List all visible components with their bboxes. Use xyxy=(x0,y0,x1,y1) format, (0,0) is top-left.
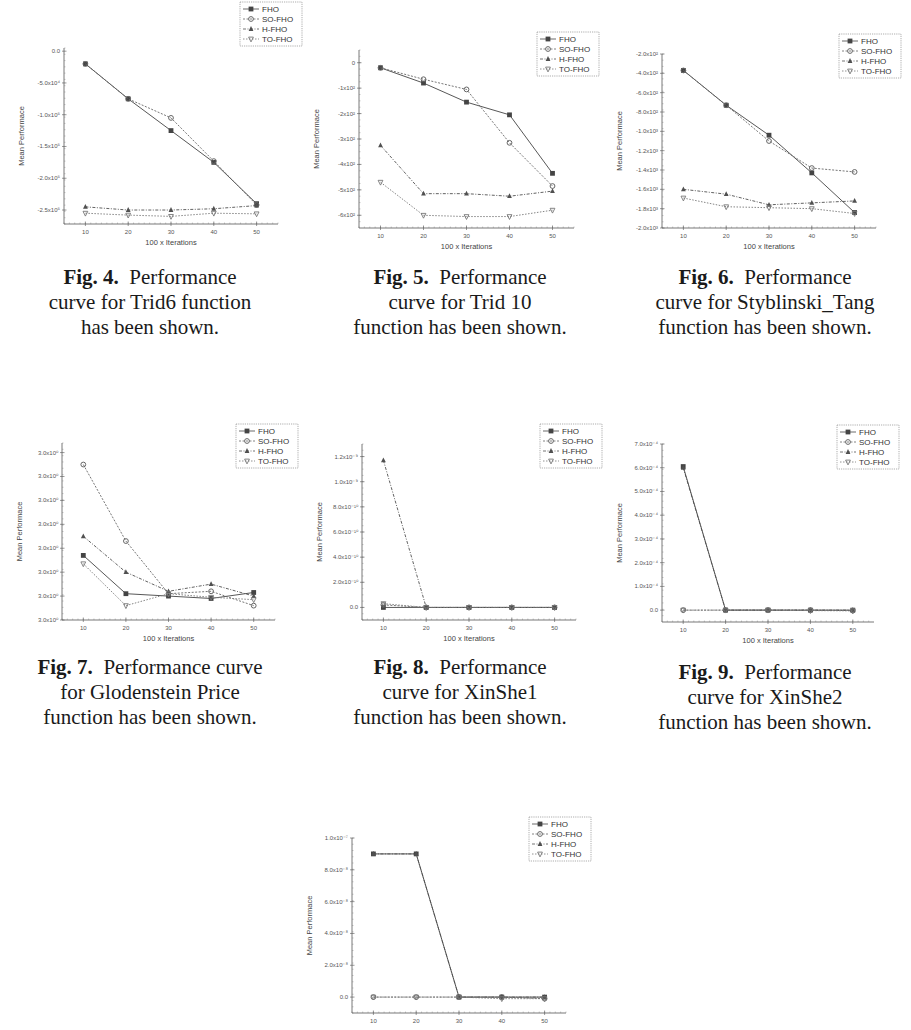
axes: -2.0x10²-4.0x10²-6.0x10²-8.0x10²-1.0x10³… xyxy=(615,51,876,251)
series-fho xyxy=(378,65,555,175)
y-tick-label: -2x10² xyxy=(338,111,355,117)
y-tick-label: 1.0x10⁻⁹ xyxy=(334,479,358,485)
y-tick-label: -1.8x10³ xyxy=(636,206,658,212)
axes: 0.0-5.0x10⁴-1.0x10⁵-1.5x10⁵-2.0x10⁵-2.5x… xyxy=(17,48,278,247)
triangle-up-marker-icon xyxy=(83,204,88,209)
figure-10-chart: 0.02.0x10⁻⁸4.0x10⁻⁸6.0x10⁻⁸8.0x10⁻⁸1.0x1… xyxy=(300,800,620,1030)
triangle-down-marker-icon xyxy=(421,213,426,218)
x-axis-label: 100 x Iterations xyxy=(742,636,794,645)
square-marker-icon xyxy=(169,128,174,133)
x-tick-label: 30 xyxy=(165,625,172,631)
legend-label: H-FHO xyxy=(551,840,576,849)
triangle-down-marker-icon xyxy=(724,205,729,210)
x-tick-label: 30 xyxy=(765,627,772,633)
square-marker-icon xyxy=(245,429,250,434)
circle-marker-icon xyxy=(251,603,256,608)
triangle-down-marker-icon xyxy=(126,213,131,218)
axes: 0.01.0x10⁻⁴2.0x10⁻⁴3.0x10⁻⁴4.0x10⁻⁴5.0x1… xyxy=(615,441,874,645)
triangle-up-marker-icon xyxy=(126,207,131,212)
legend-label: TO-FHO xyxy=(258,457,289,466)
figure-6-caption: Fig. 6. Performance curve for Styblinski… xyxy=(630,265,900,340)
series-fho xyxy=(681,464,855,612)
x-tick-label: 10 xyxy=(82,229,89,235)
legend-label: H-FHO xyxy=(562,447,587,456)
y-tick-label: 8.0x10⁻⁸ xyxy=(324,867,348,873)
legend-label: FHO xyxy=(859,428,876,437)
y-axis-label: Mean Performace xyxy=(615,503,624,563)
legend-label: H-FHO xyxy=(859,448,884,457)
circle-marker-icon xyxy=(550,184,555,189)
line-chart: -2.0x10²-4.0x10²-6.0x10²-8.0x10²-1.0x10³… xyxy=(610,0,911,260)
figure-6-chart: -2.0x10²-4.0x10²-6.0x10²-8.0x10²-1.0x10³… xyxy=(610,0,911,260)
x-tick-label: 20 xyxy=(413,1018,420,1024)
y-tick-label: 4.0x10⁻⁴ xyxy=(634,512,658,518)
x-tick-label: 20 xyxy=(420,233,427,239)
figure-number: Fig. 4. xyxy=(63,265,118,289)
legend-label: H-FHO xyxy=(258,447,283,456)
legend-label: TO-FHO xyxy=(262,35,293,44)
circle-marker-icon xyxy=(507,140,512,145)
y-tick-label: 0.0 xyxy=(350,604,359,610)
x-tick-label: 50 xyxy=(253,229,260,235)
axes: 0.02.0x10⁻¹⁰4.0x10⁻¹⁰6.0x10⁻¹⁰8.0x10⁻¹⁰1… xyxy=(315,444,576,643)
legend-label: FHO xyxy=(562,427,579,436)
triangle-up-marker-icon xyxy=(81,533,86,538)
square-marker-icon xyxy=(507,112,512,117)
y-axis-label: Mean Performace xyxy=(305,896,314,956)
y-tick-label: 3.0x10⁰ xyxy=(38,497,59,503)
legend-label: H-FHO xyxy=(262,25,287,34)
legend-label: FHO xyxy=(861,37,878,46)
y-tick-label: -1.4x10³ xyxy=(636,167,658,173)
triangle-up-marker-icon xyxy=(550,188,555,193)
triangle-down-marker-icon xyxy=(83,211,88,216)
x-tick-label: 40 xyxy=(208,625,215,631)
y-tick-label: 1.2x10⁻⁹ xyxy=(334,454,358,460)
square-marker-icon xyxy=(81,553,86,558)
triangle-down-marker-icon xyxy=(681,196,686,201)
x-axis-label: 100 x Iterations xyxy=(443,634,495,643)
series-h-fho xyxy=(371,851,547,999)
line-chart: 0.0-5.0x10⁴-1.0x10⁵-1.5x10⁵-2.0x10⁵-2.5x… xyxy=(0,0,300,260)
x-axis-label: 100 x Iterations xyxy=(143,634,195,643)
legend-label: H-FHO xyxy=(861,57,886,66)
legend-label: SO-FHO xyxy=(551,830,582,839)
figure-7-chart: 3.0x10⁰3.0x10⁰3.0x10⁰3.0x10⁰3.0x10⁰3.0x1… xyxy=(0,410,300,640)
circle-marker-icon xyxy=(767,139,772,144)
series-h-fho xyxy=(381,457,557,609)
y-tick-label: -2.5x10⁵ xyxy=(38,207,61,213)
chart-legend: FHOSO-FHOH-FHOTO-FHO xyxy=(537,32,599,76)
series-h-fho xyxy=(681,465,855,612)
y-tick-label: 4.0x10⁻⁸ xyxy=(324,930,348,936)
x-tick-label: 40 xyxy=(506,233,513,239)
y-tick-label: 5.0x10⁻⁴ xyxy=(634,488,658,494)
triangle-up-marker-icon xyxy=(464,191,469,196)
y-tick-label: -4x10² xyxy=(338,161,355,167)
x-tick-label: 30 xyxy=(766,233,773,239)
square-marker-icon xyxy=(124,591,129,596)
y-tick-label: 3.0x10⁻⁴ xyxy=(634,536,658,542)
axes: 3.0x10⁰3.0x10⁰3.0x10⁰3.0x10⁰3.0x10⁰3.0x1… xyxy=(15,443,275,643)
chart-legend: FHOSO-FHOH-FHOTO-FHO xyxy=(839,34,901,78)
x-tick-label: 30 xyxy=(168,229,175,235)
triangle-down-marker-icon xyxy=(211,211,216,216)
y-tick-label: 2.0x10⁻⁴ xyxy=(634,560,658,566)
chart-legend: FHOSO-FHOH-FHOTO-FHO xyxy=(837,425,899,469)
square-marker-icon xyxy=(848,39,853,44)
legend-label: H-FHO xyxy=(559,55,584,64)
x-tick-label: 50 xyxy=(551,625,558,631)
y-tick-label: 0.0 xyxy=(52,48,61,54)
series-h-fho xyxy=(81,533,256,598)
triangle-up-marker-icon xyxy=(724,191,729,196)
line-chart: 0-1x10²-2x10²-3x10²-4x10²-5x10²-6x10²102… xyxy=(300,0,610,260)
x-tick-label: 10 xyxy=(370,1018,377,1024)
figure-9-caption: Fig. 9. Performance curve for XinShe2 fu… xyxy=(630,660,900,735)
legend-label: FHO xyxy=(258,427,275,436)
legend-label: SO-FHO xyxy=(258,437,289,446)
x-tick-label: 30 xyxy=(463,233,470,239)
x-axis-label: 100 x Iterations xyxy=(743,242,795,251)
x-tick-label: 10 xyxy=(680,233,687,239)
legend-label: FHO xyxy=(559,35,576,44)
triangle-up-marker-icon xyxy=(421,191,426,196)
y-tick-label: 2.0x10⁻¹⁰ xyxy=(333,579,359,585)
triangle-down-marker-icon xyxy=(507,215,512,220)
